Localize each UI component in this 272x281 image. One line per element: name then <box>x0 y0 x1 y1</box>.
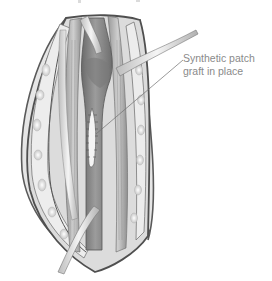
cropped-heading-fragment <box>78 0 140 3</box>
incision-illustration <box>0 0 272 281</box>
patch-graft-label: Synthetic patch graft in place <box>183 52 272 78</box>
surgical-illustration: Synthetic patch graft in place <box>0 0 272 281</box>
